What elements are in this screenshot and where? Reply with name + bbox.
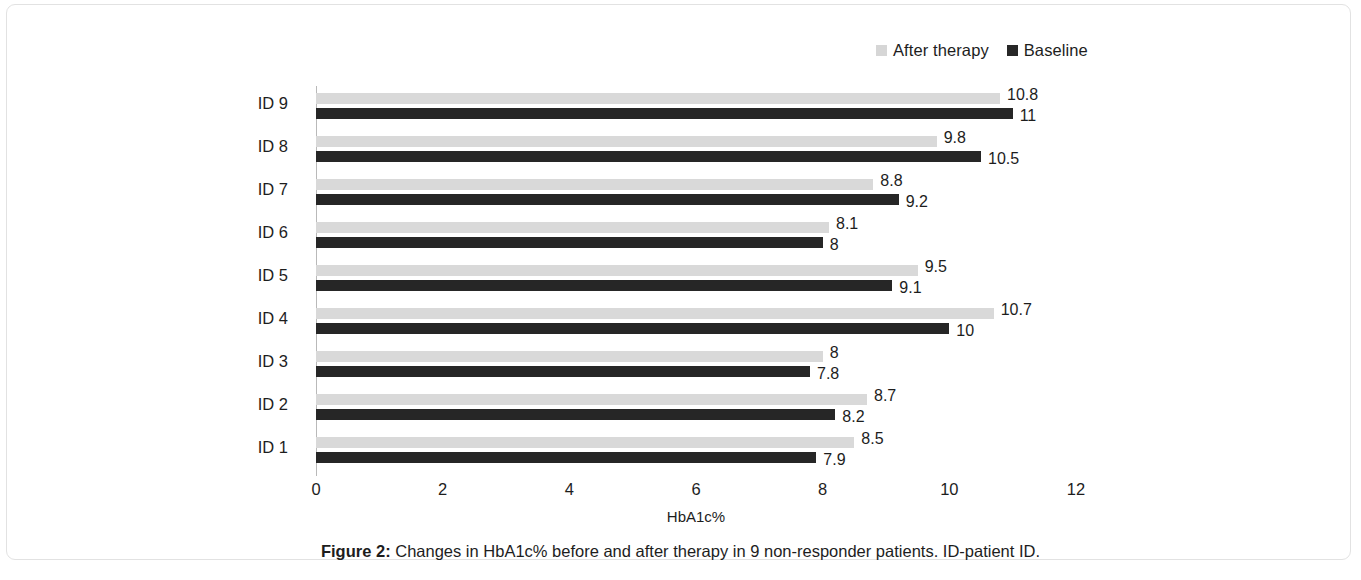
bar-after [316, 136, 937, 147]
bar-group: ID 18.57.9 [316, 430, 1076, 473]
legend-item-after-therapy: After therapy [876, 41, 989, 60]
bar-baseline [316, 409, 835, 420]
bar-baseline [316, 452, 816, 463]
bar-value-baseline: 11 [1020, 108, 1037, 124]
category-label-id-8: ID 8 [258, 137, 288, 156]
bar-value-after: 8.5 [861, 431, 883, 447]
category-label-id-4: ID 4 [258, 309, 288, 328]
bar-value-after: 8.8 [880, 173, 902, 189]
bar-baseline [316, 151, 981, 162]
bar-value-baseline: 7.9 [823, 452, 845, 468]
category-label-id-3: ID 3 [258, 352, 288, 371]
bar-group: ID 28.78.2 [316, 387, 1076, 430]
bar-value-baseline: 10.5 [988, 151, 1019, 167]
bar-value-after: 10.7 [1001, 302, 1032, 318]
bar-baseline [316, 280, 892, 291]
bar-baseline [316, 194, 899, 205]
x-axis-tick-8: 8 [818, 480, 827, 499]
bar-group: ID 59.59.1 [316, 258, 1076, 301]
bar-after [316, 93, 1000, 104]
plot-area: ID 910.811ID 89.810.5ID 78.89.2ID 68.18I… [316, 86, 1076, 476]
x-axis: 024681012 [316, 480, 1076, 506]
category-label-id-5: ID 5 [258, 266, 288, 285]
bar-value-baseline: 9.1 [899, 280, 921, 296]
legend-swatch-icon-baseline [1007, 45, 1018, 56]
bar-after [316, 222, 829, 233]
figure-caption-text: Changes in HbA1c% before and after thera… [391, 542, 1040, 560]
x-axis-tick-12: 12 [1067, 480, 1085, 499]
x-axis-tick-10: 10 [940, 480, 958, 499]
bar-baseline [316, 366, 810, 377]
bar-value-after: 9.5 [925, 259, 947, 275]
bar-after [316, 394, 867, 405]
legend-swatch-icon-after-therapy [876, 45, 887, 56]
x-axis-tick-0: 0 [311, 480, 320, 499]
bar-value-baseline: 8.2 [842, 409, 864, 425]
bar-value-after: 8.1 [836, 216, 858, 232]
legend-label-baseline: Baseline [1024, 41, 1088, 60]
bar-after [316, 265, 918, 276]
bar-value-baseline: 10 [956, 323, 974, 339]
bar-group: ID 68.18 [316, 215, 1076, 258]
bar-group: ID 89.810.5 [316, 129, 1076, 172]
category-label-id-6: ID 6 [258, 223, 288, 242]
bar-after [316, 179, 873, 190]
figure-caption-prefix: Figure 2: [321, 542, 391, 560]
bar-after [316, 351, 823, 362]
legend-label-after-therapy: After therapy [893, 41, 989, 60]
bar-value-baseline: 7.8 [817, 366, 839, 382]
bar-after [316, 437, 854, 448]
bar-baseline [316, 237, 823, 248]
category-label-id-1: ID 1 [258, 438, 288, 457]
x-axis-tick-6: 6 [691, 480, 700, 499]
x-axis-tick-4: 4 [565, 480, 574, 499]
bar-value-after: 10.8 [1007, 87, 1038, 103]
bar-value-baseline: 8 [830, 237, 839, 253]
bar-value-after: 8.7 [874, 388, 896, 404]
category-label-id-2: ID 2 [258, 395, 288, 414]
bar-after [316, 308, 994, 319]
bar-baseline [316, 323, 949, 334]
figure-container: After therapy Baseline ID 910.811ID 89.8… [0, 0, 1361, 580]
bar-group: ID 410.710 [316, 301, 1076, 344]
legend-item-baseline: Baseline [1007, 41, 1088, 60]
bar-value-after: 8 [830, 345, 839, 361]
category-label-id-9: ID 9 [258, 94, 288, 113]
category-label-id-7: ID 7 [258, 180, 288, 199]
bar-group: ID 387.8 [316, 344, 1076, 387]
x-axis-title: HbA1c% [316, 508, 1076, 525]
bar-baseline [316, 108, 1013, 119]
chart-legend: After therapy Baseline [876, 38, 1088, 62]
figure-caption: Figure 2: Changes in HbA1c% before and a… [0, 542, 1361, 561]
bar-value-after: 9.8 [944, 130, 966, 146]
bar-group: ID 78.89.2 [316, 172, 1076, 215]
x-axis-tick-2: 2 [438, 480, 447, 499]
bar-group: ID 910.811 [316, 86, 1076, 129]
bar-value-baseline: 9.2 [906, 194, 928, 210]
